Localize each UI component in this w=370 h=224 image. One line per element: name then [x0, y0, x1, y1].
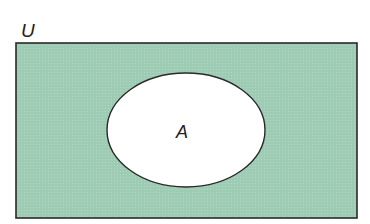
- venn-diagram: U A: [0, 0, 370, 224]
- set-a-label: A: [175, 122, 188, 142]
- universe-label: U: [21, 20, 35, 41]
